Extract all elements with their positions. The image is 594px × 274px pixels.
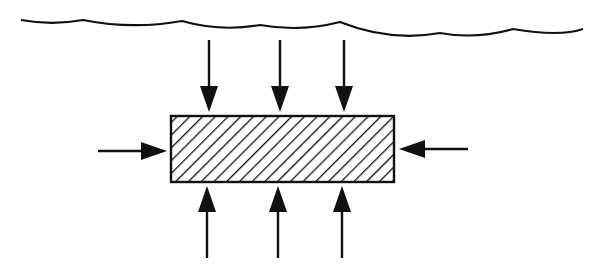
- arrow-up-icon: [198, 186, 216, 258]
- water-surface: [21, 20, 583, 36]
- arrow-right-icon: [98, 142, 167, 160]
- diagram-canvas: [0, 0, 594, 274]
- arrow-down-icon: [335, 40, 353, 112]
- arrow-up-icon: [269, 186, 287, 258]
- submerged-body: [171, 116, 394, 182]
- arrow-left-icon: [399, 140, 468, 158]
- arrow-up-icon: [333, 186, 351, 258]
- arrow-down-icon: [271, 40, 289, 112]
- arrow-down-icon: [200, 40, 218, 112]
